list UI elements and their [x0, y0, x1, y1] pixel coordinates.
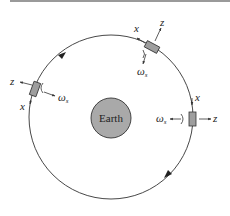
- satellite-top-right: x z ωs: [133, 16, 165, 79]
- earth: Earth: [91, 98, 131, 138]
- x-axis-label: x: [133, 22, 139, 34]
- z-axis-label: z: [9, 75, 15, 87]
- earth-label: Earth: [99, 112, 123, 124]
- x-axis-label: x: [19, 100, 25, 112]
- omega-label: ωs: [58, 91, 69, 105]
- z-axis-label: z: [212, 112, 218, 124]
- omega-label: ωs: [137, 65, 148, 79]
- x-axis-label: x: [194, 91, 200, 103]
- omega-label: ωs: [156, 112, 167, 126]
- satellite-right: x z ωs: [156, 91, 218, 126]
- satellite-left: z x ωs: [9, 75, 69, 112]
- orbit-diagram: Earth x z ωs z x ωs: [0, 0, 230, 216]
- z-axis-label: z: [159, 16, 165, 28]
- orbit-direction-arrow-icon: [164, 170, 172, 178]
